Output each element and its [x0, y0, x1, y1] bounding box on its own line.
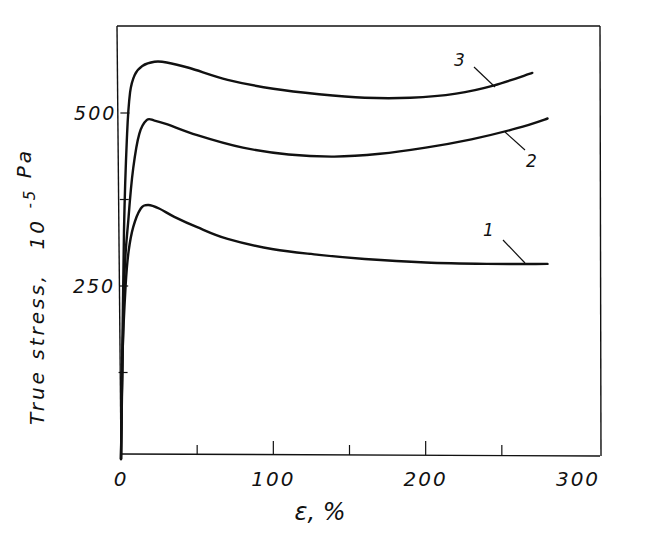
leader-line-1	[503, 240, 525, 263]
x-tick-label: 300	[556, 467, 600, 491]
data-series	[121, 61, 548, 459]
y-axis-label-unit-base: 10	[25, 218, 49, 249]
series-label-3: 3	[454, 50, 465, 70]
y-tick-label: 250	[73, 275, 115, 297]
curve-3	[121, 61, 532, 459]
x-axis-ticks	[197, 441, 502, 455]
x-axis-label: ε, %	[294, 498, 345, 526]
series-label-2: 2	[526, 151, 537, 171]
y-tick-label: 500	[74, 102, 116, 124]
leader-line-3	[474, 67, 495, 87]
x-axis-tick-labels: 0100200300	[114, 467, 600, 491]
y-axis-tick-labels: 250500	[73, 102, 116, 297]
y-axis-label: True stress, 10 -5 Pa	[12, 148, 49, 425]
stress-strain-chart: 0100200300 250500 3 2 1 ε, % True stress…	[0, 0, 651, 538]
curve-1	[121, 205, 548, 459]
y-axis-label-main: True stress,	[25, 273, 49, 425]
x-tick-label: 200	[404, 467, 448, 491]
svg-text:True stress, 10 -5: True stress, 10 -5 Pa	[12, 148, 49, 425]
x-tick-label: 0	[114, 467, 129, 491]
series-label-1: 1	[483, 220, 494, 240]
x-tick-label: 100	[251, 467, 295, 491]
leader-line-2	[505, 132, 525, 150]
series-labels: 3 2 1	[454, 50, 537, 263]
curve-2	[121, 119, 548, 460]
plot-frame	[117, 26, 601, 456]
y-axis-label-unit-tail: Pa	[12, 148, 36, 178]
y-axis-label-unit-exp: -5	[21, 188, 39, 209]
